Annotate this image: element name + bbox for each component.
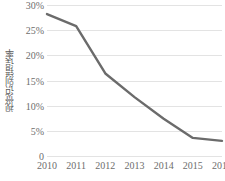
- y-tick-label: 20%: [26, 50, 44, 61]
- y-axis-tick-labels: 05%10%15%20%25%30%: [16, 0, 46, 160]
- y-tick-label: 5%: [31, 125, 44, 136]
- series-polyline: [47, 14, 222, 141]
- x-axis-tick-labels: 2010201120122013201420152016: [47, 160, 222, 178]
- x-tick-label: 2014: [154, 160, 174, 171]
- y-axis-title-label: 视觉识别错误率: [5, 49, 14, 112]
- y-tick-label: 10%: [26, 100, 44, 111]
- x-tick-label: 2010: [37, 160, 57, 171]
- y-tick-label: 25%: [26, 25, 44, 36]
- series-line-visual-recognition-error-rate: [47, 5, 222, 156]
- chart-container: 视觉识别错误率 05%10%15%20%25%30% 2010201120122…: [0, 0, 225, 181]
- y-tick-label: 15%: [26, 75, 44, 86]
- gridline-0: [47, 156, 222, 157]
- plot-area: [47, 5, 222, 156]
- x-tick-label: 2012: [95, 160, 115, 171]
- y-tick-label: 30%: [26, 0, 44, 11]
- x-tick-label: 2011: [66, 160, 86, 171]
- x-tick-label: 2013: [125, 160, 145, 171]
- x-tick-label: 2015: [183, 160, 203, 171]
- x-tick-label: 2016: [212, 160, 225, 171]
